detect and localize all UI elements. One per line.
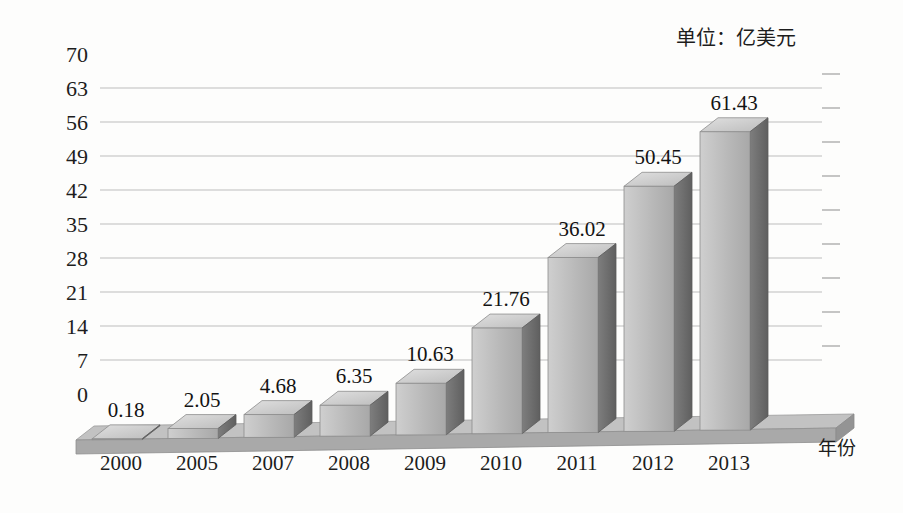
x-axis-category-label: 2007 <box>252 451 294 475</box>
bar-chart-svg: 07142128354249566370 0.182.054.686.3510.… <box>0 0 903 513</box>
y-axis-tick-label: 0 <box>77 382 88 407</box>
bar-2012[interactable] <box>624 172 692 431</box>
bar-side-face <box>750 118 768 430</box>
bar-value-label: 4.68 <box>260 374 297 398</box>
y-axis-tick-label: 63 <box>66 76 88 101</box>
chart-container: 07142128354249566370 0.182.054.686.3510.… <box>0 0 903 513</box>
bar-2010[interactable] <box>472 314 540 434</box>
y-axis-tick-label: 14 <box>66 314 88 339</box>
bar-2009[interactable] <box>396 369 464 435</box>
bar-front-face <box>244 415 294 438</box>
x-axis-category-labels: 200020052007200820092010201120122013 <box>100 451 750 475</box>
bar-front-face <box>92 439 142 440</box>
bar-2011[interactable] <box>548 244 616 433</box>
bar-front-face <box>320 405 370 436</box>
x-axis-category-label: 2011 <box>556 451 597 475</box>
bar-value-label: 36.02 <box>558 217 605 241</box>
x-axis-title: 年份 <box>818 438 856 459</box>
y-axis-tick-label: 28 <box>66 246 88 271</box>
x-axis-category-label: 2008 <box>328 451 370 475</box>
x-axis-category-label: 2010 <box>480 451 522 475</box>
bar-value-label: 10.63 <box>406 342 453 366</box>
bar-front-face <box>624 186 674 431</box>
y-axis-tick-label: 21 <box>66 280 88 305</box>
bar-value-label: 0.18 <box>108 398 145 422</box>
y-axis-tick-label: 49 <box>66 144 88 169</box>
bar-front-face <box>472 328 522 434</box>
bar-value-label: 50.45 <box>634 145 681 169</box>
bar-front-face <box>396 383 446 435</box>
bar-front-face <box>700 132 750 430</box>
x-axis-category-label: 2013 <box>708 451 750 475</box>
y-axis-tick-label: 56 <box>66 110 88 135</box>
bar-2008[interactable] <box>320 391 388 436</box>
x-axis-category-label: 2012 <box>632 451 674 475</box>
bar-side-face <box>674 172 692 431</box>
bar-side-face <box>522 314 540 434</box>
bar-front-face <box>168 429 218 439</box>
bar-front-face <box>548 258 598 433</box>
unit-note-label: 单位：亿美元 <box>676 27 796 49</box>
y-axis-tick-label: 7 <box>77 348 88 373</box>
y-axis-tick-label: 42 <box>66 178 88 203</box>
x-axis-category-label: 2000 <box>100 451 142 475</box>
bar-value-label: 61.43 <box>710 91 757 115</box>
bar-value-label: 21.76 <box>482 287 529 311</box>
y-axis-tick-label: 35 <box>66 212 88 237</box>
bar-2013[interactable] <box>700 118 768 430</box>
x-axis-category-label: 2009 <box>404 451 446 475</box>
bar-value-label: 6.35 <box>336 364 373 388</box>
bar-side-face <box>598 244 616 433</box>
bar-value-label: 2.05 <box>184 388 221 412</box>
y-axis-tick-label: 70 <box>66 42 88 67</box>
x-axis-category-label: 2005 <box>176 451 218 475</box>
